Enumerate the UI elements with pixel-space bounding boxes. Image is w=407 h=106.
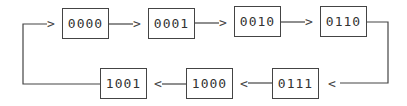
arrowhead-right-icon: > bbox=[219, 16, 227, 29]
state-box-0000: 0000 bbox=[62, 8, 109, 39]
state-box-0010: 0010 bbox=[234, 6, 281, 37]
arrowhead-left-icon: < bbox=[328, 77, 336, 90]
arrowhead-right-icon: > bbox=[305, 15, 313, 28]
arrowhead-right-icon: > bbox=[133, 17, 141, 30]
state-box-0111: 0111 bbox=[272, 68, 319, 99]
state-box-0110: 0110 bbox=[320, 6, 367, 37]
state-box-0001: 0001 bbox=[148, 8, 195, 39]
arrowhead-left-icon: < bbox=[154, 77, 162, 90]
arrowhead-right-icon: > bbox=[47, 17, 55, 30]
state-box-1000: 1000 bbox=[186, 68, 233, 99]
arrowhead-left-icon: < bbox=[240, 77, 248, 90]
state-box-1001: 1001 bbox=[100, 68, 147, 99]
